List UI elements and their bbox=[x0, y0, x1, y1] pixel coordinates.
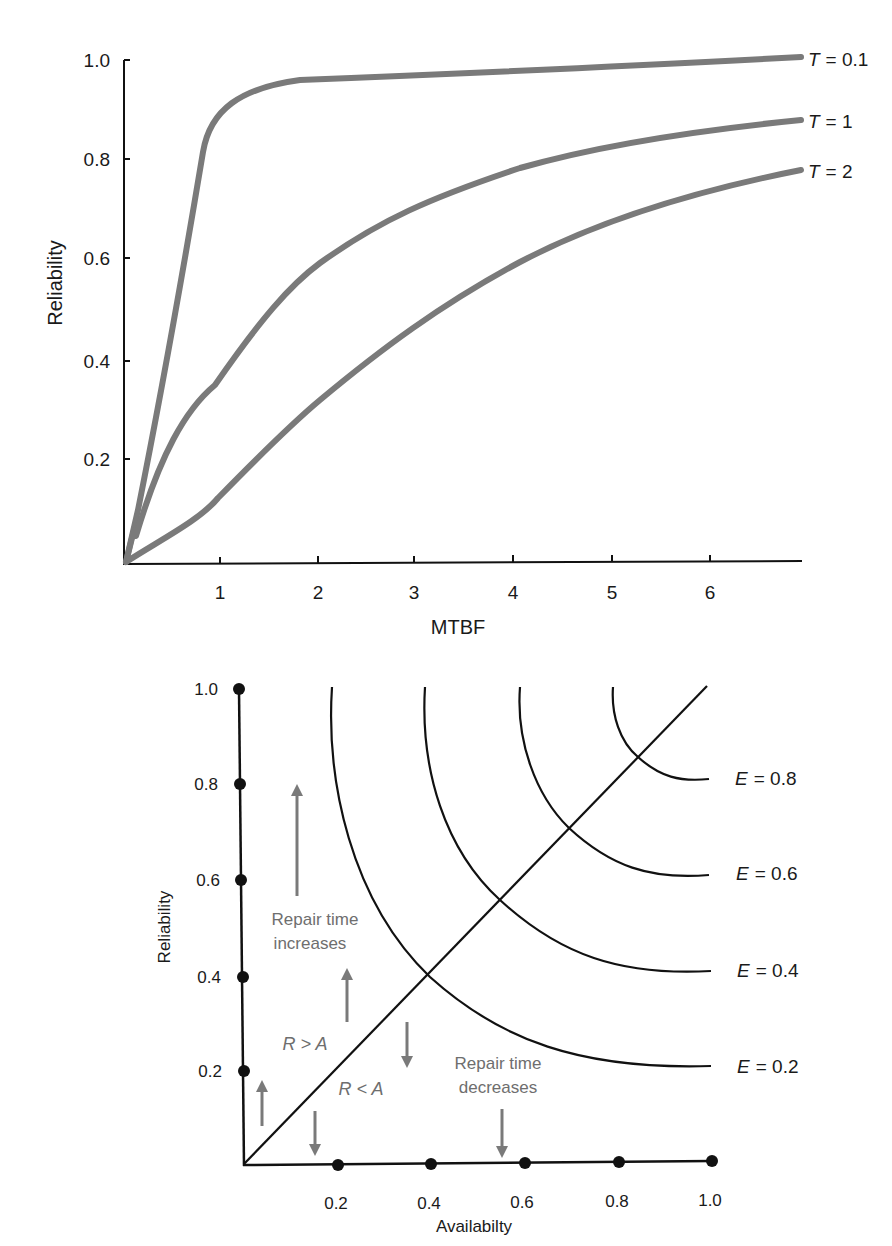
legend-t-2: T= 2 bbox=[808, 161, 853, 182]
x-tick-label: 4 bbox=[508, 582, 519, 603]
top-x-axis bbox=[123, 555, 802, 564]
x-tick-label: 0.2 bbox=[324, 1194, 348, 1213]
x-tick-label: 0.8 bbox=[605, 1192, 629, 1211]
x-marker-dot bbox=[519, 1157, 531, 1169]
x-tick-label: 3 bbox=[409, 582, 420, 603]
top-chart: 1.0 0.8 0.6 0.4 0.2 Reliability 1 2 3 4 … bbox=[44, 49, 868, 638]
y-tick-label: 1.0 bbox=[84, 50, 110, 71]
legend-t-1: T= 1 bbox=[808, 111, 853, 132]
y-marker-dot bbox=[238, 1065, 250, 1077]
y-tick-label: 0.8 bbox=[84, 149, 110, 170]
y-tick-label: 0.8 bbox=[194, 775, 218, 794]
curve-t-1 bbox=[126, 120, 801, 562]
y-marker-dot bbox=[233, 683, 245, 695]
legend-e-0-4: E= 0.4 bbox=[737, 960, 799, 981]
bottom-x-axis-title: Availabilty bbox=[436, 1217, 513, 1236]
bottom-x-tick-labels: 0.2 0.4 0.6 0.8 1.0 bbox=[324, 1191, 722, 1213]
top-legend: T= 0.1 T= 1 T= 2 bbox=[808, 49, 868, 182]
x-marker-dot bbox=[613, 1156, 625, 1168]
bottom-y-axis-title: Reliability bbox=[155, 890, 174, 963]
y-marker-dot bbox=[235, 874, 247, 886]
x-tick-label: 6 bbox=[705, 582, 716, 603]
x-tick-label: 0.6 bbox=[510, 1193, 534, 1212]
top-y-axis-title: Reliability bbox=[44, 240, 66, 326]
annotation-increase-line1: Repair time bbox=[272, 910, 359, 929]
annotation-decrease-line2: decreases bbox=[459, 1078, 537, 1097]
y-tick-label: 0.2 bbox=[198, 1062, 222, 1081]
y-tick-label: 0.6 bbox=[84, 248, 110, 269]
y-tick-label: 0.4 bbox=[84, 351, 111, 372]
y-tick-label: 1.0 bbox=[194, 680, 218, 699]
x-tick-label: 1.0 bbox=[698, 1191, 722, 1210]
legend-t-0-1: T= 0.1 bbox=[808, 49, 868, 70]
annotation-decrease-line1: Repair time bbox=[455, 1054, 542, 1073]
bottom-y-tick-labels: 1.0 0.8 0.6 0.4 0.2 bbox=[194, 680, 222, 1081]
bottom-x-axis bbox=[243, 1161, 712, 1165]
top-x-tick-labels: 1 2 3 4 5 6 bbox=[215, 582, 716, 603]
top-x-axis-title: MTBF bbox=[431, 616, 485, 638]
legend-e-0-6: E= 0.6 bbox=[736, 863, 797, 884]
y-tick-label: 0.6 bbox=[196, 871, 220, 890]
annotations: Repair time increases Repair time decrea… bbox=[272, 910, 542, 1099]
x-tick-label: 5 bbox=[607, 582, 618, 603]
y-marker-dot bbox=[234, 778, 246, 790]
top-y-tick-labels: 1.0 0.8 0.6 0.4 0.2 bbox=[84, 50, 111, 470]
x-marker-dot bbox=[706, 1155, 718, 1167]
x-tick-label: 2 bbox=[313, 582, 324, 603]
y-marker-dot bbox=[237, 971, 249, 983]
bottom-legend: E= 0.8 E= 0.6 E= 0.4 E= 0.2 bbox=[735, 768, 799, 1077]
x-marker-dot bbox=[332, 1159, 344, 1171]
bottom-chart: 1.0 0.8 0.6 0.4 0.2 Reliability 0.2 0.4 … bbox=[155, 680, 799, 1236]
x-marker-dot bbox=[425, 1158, 437, 1170]
legend-e-0-2: E= 0.2 bbox=[737, 1056, 798, 1077]
annotation-increase-line2: increases bbox=[274, 934, 347, 953]
legend-e-0-8: E= 0.8 bbox=[735, 768, 796, 789]
top-y-axis bbox=[124, 60, 130, 564]
x-tick-label: 0.4 bbox=[417, 1194, 441, 1213]
annotation-r-lt-a: R < A bbox=[339, 1079, 384, 1099]
y-tick-label: 0.4 bbox=[197, 968, 221, 987]
bottom-y-axis bbox=[239, 689, 244, 1166]
x-tick-label: 1 bbox=[215, 582, 226, 603]
annotation-r-gt-a: R > A bbox=[283, 1034, 328, 1054]
top-curves bbox=[126, 57, 801, 562]
y-tick-label: 0.2 bbox=[84, 449, 110, 470]
figure-canvas: 1.0 0.8 0.6 0.4 0.2 Reliability 1 2 3 4 … bbox=[0, 0, 892, 1246]
